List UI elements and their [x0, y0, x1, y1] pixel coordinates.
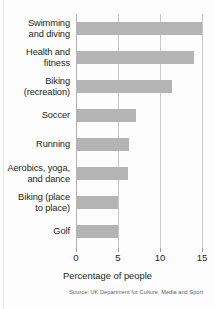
- bar: [76, 80, 172, 93]
- tick-label-5: 5: [103, 252, 133, 264]
- bar: [76, 138, 129, 151]
- x-axis-title: Percentage of people: [0, 270, 215, 282]
- bar-row: [76, 159, 202, 188]
- category-label: Soccer: [0, 110, 70, 121]
- category-label: Health andfitness: [0, 47, 70, 69]
- category-label-line: Soccer: [0, 110, 70, 121]
- bar-row: [76, 72, 202, 101]
- bar-row: [76, 217, 202, 246]
- category-label-line: (recreation): [0, 87, 70, 98]
- x-axis-tick-labels: 051015: [0, 252, 215, 266]
- category-label: Biking (placeto place): [0, 192, 70, 214]
- category-label-line: and dance: [0, 174, 70, 185]
- tick-label-0: 0: [61, 252, 91, 264]
- category-label-line: Golf: [0, 226, 70, 237]
- bar-chart-figure: Swimmingand divingHealth andfitnessBikin…: [0, 0, 215, 309]
- bar: [76, 51, 194, 64]
- category-label-line: and diving: [0, 29, 70, 40]
- gridline-15: [202, 14, 203, 248]
- bar-row: [76, 101, 202, 130]
- category-label: Biking(recreation): [0, 76, 70, 98]
- bar-row: [76, 130, 202, 159]
- category-label-line: Biking (place: [0, 192, 70, 203]
- bar: [76, 225, 118, 238]
- category-label: Aerobics, yoga,and dance: [0, 163, 70, 185]
- tick-label-10: 10: [145, 252, 175, 264]
- plot-area: [76, 14, 202, 248]
- category-label-line: Health and: [0, 47, 70, 58]
- category-label: Golf: [0, 226, 70, 237]
- bar: [76, 167, 128, 180]
- bar: [76, 196, 118, 209]
- bar-row: [76, 14, 202, 43]
- category-label-line: Aerobics, yoga,: [0, 163, 70, 174]
- category-label: Running: [0, 139, 70, 150]
- source-note: Source: UK Department for Culture, Media…: [0, 288, 209, 296]
- bar-row: [76, 43, 202, 72]
- category-label: Swimmingand diving: [0, 18, 70, 40]
- category-label-line: Biking: [0, 76, 70, 87]
- category-label-line: fitness: [0, 58, 70, 69]
- bar-row: [76, 188, 202, 217]
- bar: [76, 22, 202, 35]
- category-label-line: Running: [0, 139, 70, 150]
- bar: [76, 109, 136, 122]
- tick-label-15: 15: [187, 252, 215, 264]
- category-label-line: Swimming: [0, 18, 70, 29]
- category-label-line: to place): [0, 203, 70, 214]
